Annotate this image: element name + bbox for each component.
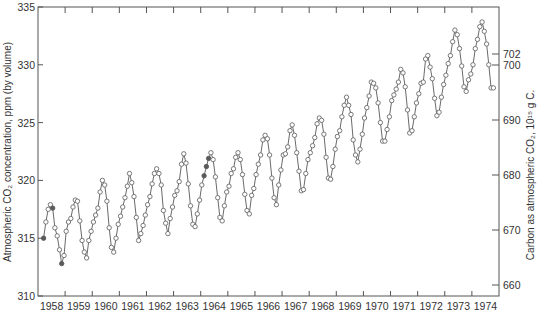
- data-point: [385, 127, 389, 131]
- data-point: [168, 216, 172, 220]
- data-point: [432, 96, 436, 100]
- data-point: [335, 134, 339, 138]
- x-tick-label: 1970: [365, 300, 389, 312]
- y-tick-label: 325: [17, 117, 35, 129]
- x-tick-label: 1972: [420, 300, 444, 312]
- data-point: [446, 61, 450, 65]
- data-point: [80, 238, 84, 242]
- data-point: [480, 20, 484, 24]
- data-point: [227, 184, 231, 188]
- data-point: [292, 133, 296, 137]
- data-point: [487, 63, 491, 67]
- data-point: [383, 139, 387, 143]
- data-point: [69, 216, 73, 220]
- data-point: [344, 95, 348, 99]
- data-point: [252, 186, 256, 190]
- data-point: [308, 151, 312, 155]
- y-tick-label: 330: [17, 59, 35, 71]
- data-point: [469, 72, 473, 76]
- data-point: [484, 42, 488, 46]
- data-point: [437, 110, 441, 114]
- data-point: [136, 238, 140, 242]
- data-point: [254, 172, 258, 176]
- data-point: [159, 183, 163, 187]
- data-point: [238, 157, 242, 161]
- data-point: [310, 144, 314, 148]
- data-point: [116, 222, 120, 226]
- data-point: [430, 77, 434, 81]
- data-point: [322, 132, 326, 136]
- data-point: [475, 37, 479, 41]
- data-point: [279, 168, 283, 172]
- data-point: [421, 80, 425, 84]
- data-point: [473, 46, 477, 50]
- data-point-interpolated: [204, 164, 208, 168]
- data-point: [150, 182, 154, 186]
- data-point: [466, 78, 470, 82]
- data-point: [184, 161, 188, 165]
- data-point: [170, 205, 174, 209]
- data-point: [164, 221, 168, 225]
- x-tick-label: 1966: [257, 300, 281, 312]
- data-point: [347, 103, 351, 107]
- data-point: [57, 248, 61, 252]
- data-point: [265, 137, 269, 141]
- data-point: [439, 95, 443, 99]
- data-point: [247, 212, 251, 216]
- data-point: [457, 46, 461, 50]
- data-point: [471, 63, 475, 67]
- data-point: [161, 208, 165, 212]
- data-point: [234, 155, 238, 159]
- data-point: [71, 205, 75, 209]
- data-point: [403, 85, 407, 89]
- data-point: [313, 135, 317, 139]
- data-point: [455, 33, 459, 37]
- plot-frame: [38, 7, 499, 296]
- y2-tick-label: 670: [503, 224, 521, 236]
- data-point-interpolated: [206, 156, 210, 160]
- x-tick-label: 1960: [94, 300, 118, 312]
- data-point: [236, 151, 240, 155]
- y-tick-label: 310: [17, 290, 35, 302]
- data-point: [249, 193, 253, 197]
- data-point: [351, 138, 355, 142]
- x-tick-label: 1964: [203, 300, 227, 312]
- data-point: [211, 157, 215, 161]
- data-point: [277, 183, 281, 187]
- data-point: [209, 151, 213, 155]
- y-axis-title: Atmospheric CO₂ concentration, ppm (by v…: [2, 42, 13, 262]
- data-point: [319, 118, 323, 122]
- x-tick-label: 1962: [148, 300, 172, 312]
- data-point: [410, 129, 414, 133]
- y2-tick-label: 690: [503, 114, 521, 126]
- data-point: [349, 112, 353, 116]
- data-point: [315, 122, 319, 126]
- data-point: [491, 86, 495, 90]
- data-point: [62, 253, 66, 257]
- data-point: [114, 236, 118, 240]
- data-point: [340, 115, 344, 119]
- data-point: [444, 73, 448, 77]
- data-point: [460, 64, 464, 68]
- data-point: [216, 196, 220, 200]
- co2-chart: 1958195919601961196219631964196519661967…: [0, 0, 541, 316]
- x-tick-label: 1963: [175, 300, 199, 312]
- data-point: [394, 87, 398, 91]
- x-tick-label: 1958: [40, 300, 64, 312]
- data-point: [96, 206, 100, 210]
- data-point: [143, 213, 147, 217]
- data-point: [148, 194, 152, 198]
- data-point: [195, 212, 199, 216]
- data-point: [417, 92, 421, 96]
- data-point: [188, 204, 192, 208]
- y2-tick-label: 700: [503, 59, 521, 71]
- data-point: [154, 167, 158, 171]
- data-point: [288, 129, 292, 133]
- data-point: [82, 250, 86, 254]
- x-tick-label: 1969: [338, 300, 362, 312]
- data-point-interpolated: [51, 206, 55, 210]
- data-point: [365, 105, 369, 109]
- data-point: [186, 182, 190, 186]
- data-point: [182, 152, 186, 156]
- data-point: [220, 219, 224, 223]
